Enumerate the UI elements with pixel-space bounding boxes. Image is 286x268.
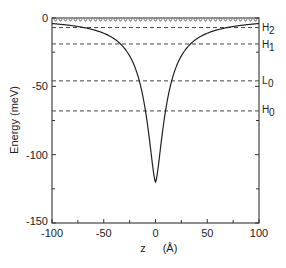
level-label-H0: H 0 bbox=[262, 104, 275, 118]
y-tick-label: -50 bbox=[32, 80, 48, 92]
x-tick-label: 50 bbox=[201, 227, 213, 239]
svg-text:1: 1 bbox=[269, 42, 275, 53]
svg-text:0: 0 bbox=[268, 78, 274, 89]
plot-border bbox=[52, 18, 259, 223]
x-tick-label: 100 bbox=[250, 227, 268, 239]
x-axis-title-z: z bbox=[140, 242, 146, 254]
x-tick-label: -100 bbox=[41, 227, 63, 239]
x-tick-label: -50 bbox=[96, 227, 112, 239]
level-label-L0: L 0 bbox=[262, 75, 274, 89]
y-tick-label: -150 bbox=[26, 215, 48, 227]
y-tick-label: 0 bbox=[42, 12, 48, 24]
y-axis-title: Energy (meV) bbox=[8, 86, 20, 154]
svg-text:2: 2 bbox=[269, 25, 275, 36]
level-label-H1: H 1 bbox=[262, 39, 275, 53]
level-label-H2: H 2 bbox=[262, 22, 275, 36]
y-tick-label: -100 bbox=[26, 149, 48, 161]
x-tick-label: 0 bbox=[152, 227, 158, 239]
plot-frame bbox=[52, 18, 259, 223]
potential-line bbox=[52, 24, 259, 182]
level-line-top bbox=[54, 19, 257, 21]
energy-levels bbox=[52, 19, 259, 111]
energy-chart: -100-500501000-50-100-150 Energy (meV) z… bbox=[0, 0, 286, 268]
x-axis-title-unit: (Å) bbox=[163, 242, 178, 254]
potential-curve bbox=[52, 24, 259, 182]
svg-text:0: 0 bbox=[269, 107, 275, 118]
